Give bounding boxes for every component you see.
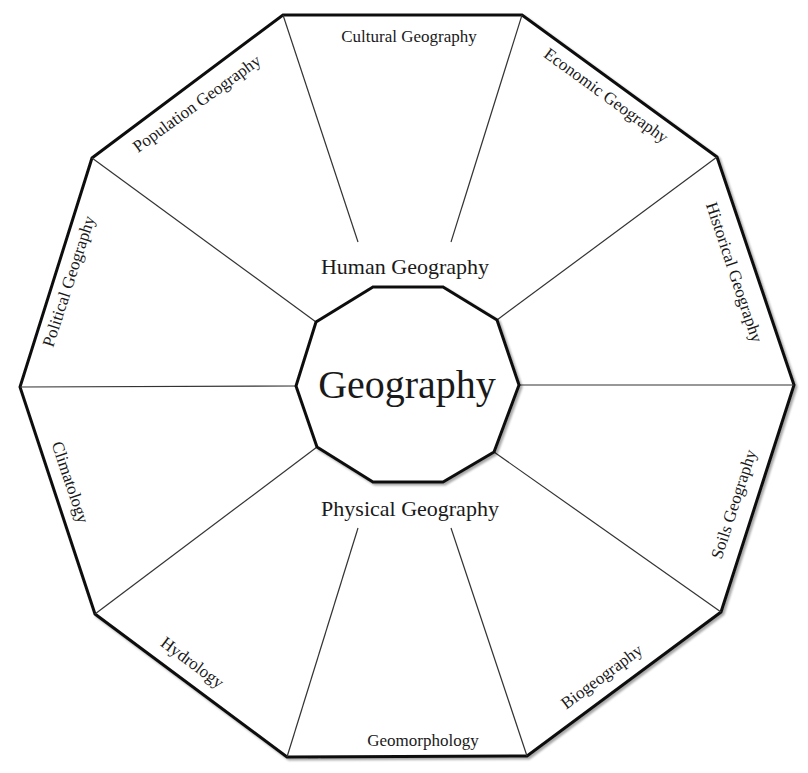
physical-geography-label: Physical Geography: [321, 496, 499, 521]
human-geography-label: Human Geography: [321, 254, 489, 279]
geography-decagon-diagram: Geography Human Geography Physical Geogr…: [0, 0, 808, 773]
center-label: Geography: [318, 362, 496, 407]
segment-label-cultural: Cultural Geography: [341, 27, 477, 46]
segment-label-geomorphology: Geomorphology: [367, 731, 479, 750]
